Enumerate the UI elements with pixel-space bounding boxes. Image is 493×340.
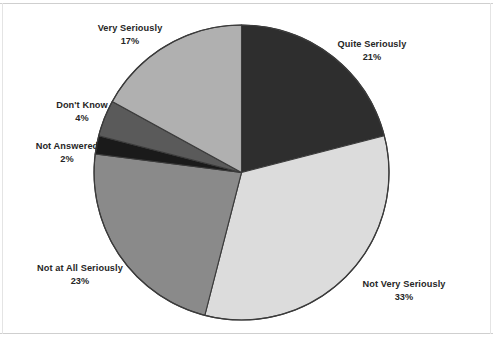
slice-label-percent: 4% xyxy=(38,112,126,125)
slice-label-name: Very Seriously xyxy=(84,22,176,35)
slice-label-percent: 21% xyxy=(320,51,424,64)
slice-label-name: Not Very Seriously xyxy=(348,278,460,291)
slice-label-name: Not Answered xyxy=(12,140,122,153)
slice-label-not-very-seriously: Not Very Seriously 33% xyxy=(348,278,460,303)
pie-slice-group xyxy=(94,25,389,320)
slice-label-percent: 33% xyxy=(348,291,460,304)
pie-chart-figure: Very Seriously 17% Quite Seriously 21% D… xyxy=(0,0,493,340)
slice-label-percent: 2% xyxy=(12,153,122,166)
slice-label-quite-seriously: Quite Seriously 21% xyxy=(320,38,424,63)
slice-label-not-answered: Not Answered 2% xyxy=(12,140,122,165)
slice-label-name: Don't Know xyxy=(38,99,126,112)
slice-label-dont-know: Don't Know 4% xyxy=(38,99,126,124)
slice-label-name: Quite Seriously xyxy=(320,38,424,51)
slice-label-name: Not at All Seriously xyxy=(22,262,138,275)
slice-label-percent: 23% xyxy=(22,275,138,288)
slice-label-percent: 17% xyxy=(84,35,176,48)
slice-label-very-seriously: Very Seriously 17% xyxy=(84,22,176,47)
slice-label-not-at-all-seriously: Not at All Seriously 23% xyxy=(22,262,138,287)
